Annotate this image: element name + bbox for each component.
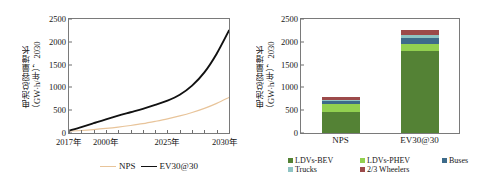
y-axis-tick-label: 1500 [49,60,66,70]
y-axis-tick-label: 2000 [281,37,298,47]
stacked-bar-ev30-30[interactable] [401,30,439,133]
x-axis-category-label: NPS [332,135,349,145]
x-axis-tick-mark [155,130,156,133]
x-axis-tick-mark [192,130,193,133]
legend-color-swatch [288,158,293,163]
x-axis-tick-mark [118,130,119,133]
left-legend: NPSEV30@30 [68,160,230,172]
bar-segment-2-3-wheelers [401,30,439,35]
y-axis-tick-mark [301,64,304,65]
bar-segment-ldvs-bev [322,112,360,133]
left-plot-area: 250020001500100050002017年2000年2025年2030年 [68,18,230,134]
y-axis-tick-mark [301,133,304,134]
bar-segment-ldvs-phev [322,104,360,112]
legend-color-swatch [360,158,365,163]
x-axis-tick-mark [229,130,230,133]
line-chart-panel: 电池总容量增长 （GW·h/年），2030 250020001500100050… [0,0,240,188]
y-axis-tick-mark [301,41,304,42]
right-y-axis-title: 电池总容量增长 （GW·h/年），2030 [256,18,276,136]
bar-segment-ldvs-bev [401,51,439,133]
legend-label: EV30@30 [160,161,198,171]
y-axis-tick-mark [69,64,72,65]
right-y-axis-title-line2: （GW·h/年），2030 [266,18,276,136]
x-axis-tick-mark [94,130,95,133]
legend-item-buses[interactable]: Buses [442,156,468,165]
x-axis-tick-mark [106,130,107,133]
right-legend: LDVs-BEVLDVs-PHEVBusesTrucks2/3 Wheelers [288,156,478,174]
stacked-bar-nps[interactable] [322,97,360,133]
y-axis-tick-label: 500 [285,105,298,115]
y-axis-tick-mark [301,19,304,20]
x-axis-tick-label: 2000年 [93,135,119,147]
legend-item-2-3-wheelers[interactable]: 2/3 Wheelers [360,165,442,174]
y-axis-tick-mark [301,110,304,111]
bar-segment-buses [401,38,439,44]
left-y-axis-title-line1: 电池总容量增长 [22,46,32,109]
y-axis-tick-mark [69,19,72,20]
legend-item-trucks[interactable]: Trucks [288,165,360,174]
y-axis-tick-mark [69,110,72,111]
x-axis-tick-mark [180,130,181,133]
y-axis-tick-label: 0 [294,128,298,138]
x-axis-tick-label: 2017年 [56,135,82,147]
bar-segment-trucks [401,35,439,38]
left-y-axis-title: 电池总容量增长 （GW·h/年），2030 [22,18,42,136]
bar-segment-ldvs-phev [401,44,439,52]
x-axis-tick-mark [131,130,132,133]
legend-item-ldvs-phev[interactable]: LDVs-PHEV [360,156,442,165]
x-axis-tick-mark [217,130,218,133]
y-axis-tick-mark [69,87,72,88]
y-axis-tick-label: 1000 [49,82,66,92]
x-axis-tick-mark [81,130,82,133]
y-axis-tick-label: 1000 [281,82,298,92]
legend-color-swatch [288,167,293,172]
legend-color-swatch [360,167,365,172]
series-line-ev30-30 [69,30,229,130]
right-plot-area: 25002000150010005000NPSEV30@30 [300,18,460,134]
bar-segment-trucks [322,100,360,101]
left-series-svg [69,19,229,133]
legend-item-nps[interactable]: NPS [100,161,136,171]
x-axis-tick-mark [204,130,205,133]
y-axis-tick-mark [301,87,304,88]
bar-chart-panel: 电池总容量增长 （GW·h/年），2030 250020001500100050… [240,0,481,188]
bar-segment-2-3-wheelers [322,97,360,100]
left-y-axis-title-line2: （GW·h/年），2030 [32,18,42,136]
right-y-axis-title-line1: 电池总容量增长 [256,46,266,109]
y-axis-tick-label: 1500 [281,60,298,70]
legend-label: NPS [119,161,136,171]
legend-item-ev30-30[interactable]: EV30@30 [141,161,198,171]
x-axis-tick-label: 2025年 [154,135,180,147]
legend-label: Buses [449,156,468,165]
x-axis-tick-mark [143,130,144,133]
y-axis-tick-mark [69,41,72,42]
figure-root: 电池总容量增长 （GW·h/年），2030 250020001500100050… [0,0,481,188]
legend-color-swatch [442,158,447,163]
bar-segment-buses [322,101,360,104]
x-axis-category-label: EV30@30 [400,135,438,145]
legend-line-swatch [100,166,116,167]
y-axis-tick-label: 500 [53,105,66,115]
y-axis-tick-label: 2500 [49,14,66,24]
y-axis-tick-label: 2000 [49,37,66,47]
series-line-nps [69,97,229,131]
legend-label: LDVs-PHEV [367,156,410,165]
x-axis-tick-mark [69,130,70,133]
legend-item-ldvs-bev[interactable]: LDVs-BEV [288,156,360,165]
legend-label: LDVs-BEV [295,156,333,165]
x-axis-tick-mark [167,130,168,133]
legend-line-swatch [141,166,157,167]
y-axis-tick-label: 2500 [281,14,298,24]
legend-label: 2/3 Wheelers [367,165,409,174]
legend-row: Trucks2/3 Wheelers [288,165,478,174]
x-axis-tick-label: 2030年 [212,135,238,147]
legend-row: LDVs-BEVLDVs-PHEVBuses [288,156,478,165]
legend-label: Trucks [295,165,317,174]
